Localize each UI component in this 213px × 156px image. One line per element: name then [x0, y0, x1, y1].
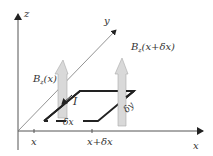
- field-label-left-main: B: [32, 73, 40, 84]
- field-arrow-right: [115, 58, 128, 126]
- loop-front-segment: [126, 91, 134, 97]
- tick-label-x: x: [31, 136, 37, 147]
- field-label-left: Bz(x): [32, 73, 57, 85]
- diagram-canvas: z x y x x+δx I δx δy Bz(x) Bz(x+δx): [0, 0, 213, 156]
- loop-width-label: δx: [63, 117, 74, 127]
- field-label-left-arg: (x): [44, 73, 58, 84]
- y-axis-label: y: [103, 15, 110, 26]
- tick-label-x-plus-dx: x+δx: [87, 136, 113, 147]
- field-label-right-main: B: [130, 41, 138, 52]
- field-label-right: Bz(x+δx): [130, 41, 175, 53]
- current-label: I: [72, 95, 78, 108]
- field-label-right-arg: (x+δx): [142, 41, 176, 52]
- x-axis-label: x: [193, 140, 199, 151]
- z-axis-label: z: [23, 8, 30, 19]
